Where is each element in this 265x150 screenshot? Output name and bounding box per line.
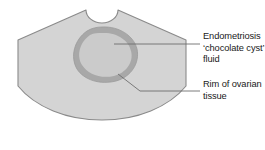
ultrasound-diagram-figure: Endometriosis ‘chocolate cyst’ fluid Rim…	[0, 0, 265, 150]
scan-illustration	[0, 0, 265, 150]
label-ovarian-rim: Rim of ovarian tissue	[203, 79, 262, 102]
label-chocolate-cyst-line-3: fluid	[203, 54, 264, 66]
label-ovarian-rim-line-1: Rim of ovarian	[203, 79, 262, 91]
label-ovarian-rim-line-2: tissue	[203, 91, 262, 103]
label-chocolate-cyst-line-2: ‘chocolate cyst’	[203, 43, 264, 55]
label-chocolate-cyst: Endometriosis ‘chocolate cyst’ fluid	[203, 31, 264, 66]
label-chocolate-cyst-line-1: Endometriosis	[203, 31, 264, 43]
chocolate-cyst-fluid	[79, 33, 131, 77]
